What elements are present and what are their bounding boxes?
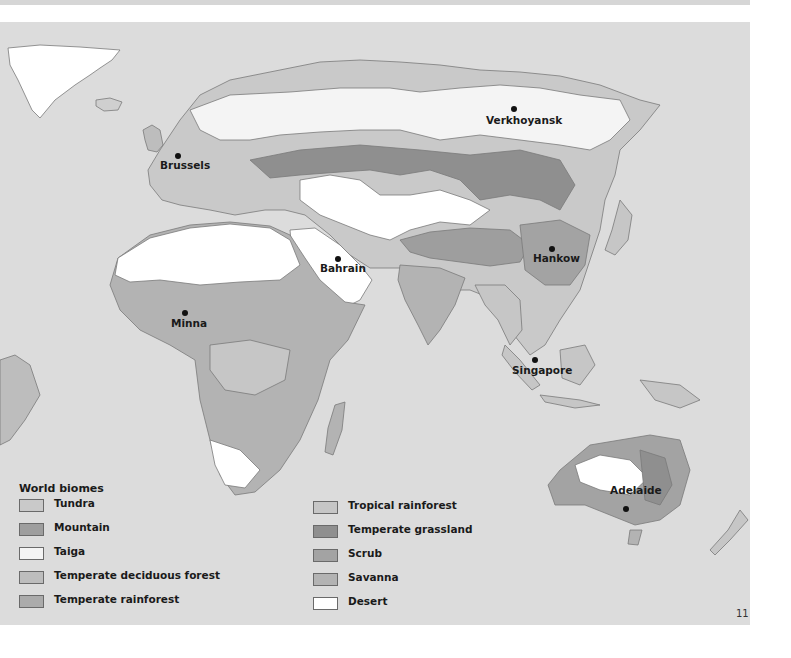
iceland [96,98,122,111]
legend-label: Tropical rainforest [348,499,457,511]
swatch-taiga [19,547,44,560]
city-dot-minna [182,310,188,316]
british-isles [143,125,163,152]
page-number: 11 [736,608,749,619]
top-page-strip [0,0,750,5]
swatch-temperate-deciduous-forest [19,571,44,584]
swatch-savanna [313,573,338,586]
sahara [115,224,300,285]
legend-label: Temperate rainforest [54,593,179,605]
swatch-mountain [19,523,44,536]
city-label-bahrain: Bahrain [320,262,366,274]
city-dot-singapore [532,357,538,363]
legend-label: Desert [348,595,387,607]
city-label-verkhoyansk: Verkhoyansk [486,114,562,126]
swatch-scrub [313,549,338,562]
legend-label: Temperate grassland [348,523,472,535]
new-zealand [710,510,748,555]
legend-label: Tundra [54,497,95,509]
city-dot-adelaide [623,506,629,512]
legend-title: World biomes [19,482,104,495]
swatch-temperate-grassland [313,525,338,538]
city-label-minna: Minna [171,317,207,329]
legend-label: Temperate deciduous forest [54,569,220,581]
city-label-singapore: Singapore [512,364,572,376]
legend-label: Mountain [54,521,110,533]
swatch-desert [313,597,338,610]
new-guinea [640,380,700,408]
south-america-edge [0,355,40,445]
japan [605,200,632,255]
legend-label: Savanna [348,571,399,583]
legend-label: Taiga [54,545,85,557]
city-label-brussels: Brussels [160,159,210,171]
legend-label: Scrub [348,547,382,559]
swatch-temperate-rainforest [19,595,44,608]
world-biomes-map: Verkhoyansk Brussels Bahrain Hankow Minn… [0,22,750,625]
java [540,395,600,408]
swatch-tundra [19,499,44,512]
tasmania [628,530,642,545]
city-dot-verkhoyansk [511,106,517,112]
madagascar [325,402,345,455]
swatch-tropical-rainforest [313,501,338,514]
india [398,265,465,345]
city-label-hankow: Hankow [533,252,580,264]
city-label-adelaide: Adelaide [610,484,662,496]
